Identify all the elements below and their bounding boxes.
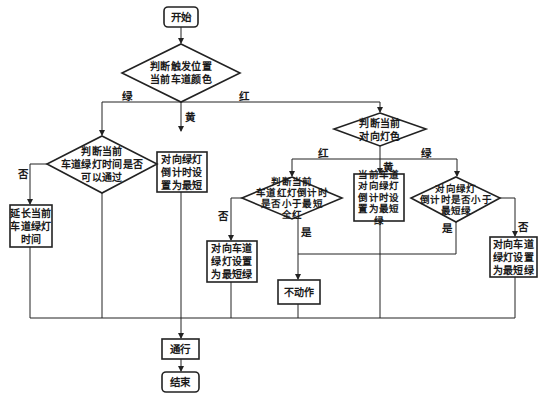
label-red: 红: [239, 90, 249, 102]
set-opposite-green-min-box-2: 对向车道 绿灯设置 为最短绿: [490, 237, 537, 277]
set-opposite-countdown-box: 对向绿灯 倒计时设 置为最短: [157, 152, 207, 192]
set-opposite-green-min-box: 对向车道 绿灯设置 为最短绿: [207, 241, 257, 282]
pass-box: 通行: [162, 339, 199, 359]
label-no-3: 否: [518, 221, 528, 233]
decision-opposite-color: 判断当前 对向灯色: [344, 116, 416, 144]
flowchart-canvas: 开始 判断触发位置 当前车道颜色 判断当前 车道绿灯时间是否 可以通过 延长当前…: [0, 0, 543, 409]
decision-red-countdown: 判断当前 车道红灯倒计时 是否小于最短 全红: [246, 176, 338, 220]
label-yes-1: 是: [301, 226, 311, 238]
label-green-2: 绿: [421, 147, 431, 159]
decision-opposite-green-countdown: 对向绿灯 倒计时是否小于 最短绿: [414, 182, 498, 216]
label-no-1: 否: [18, 168, 28, 180]
extend-green-box: 延长当前 车道绿灯 时间: [10, 205, 52, 247]
decision-current-lane-color: 判断触发位置 当前车道颜色: [130, 56, 232, 90]
start-node: 开始: [164, 7, 198, 27]
label-yes-2: 是: [442, 222, 452, 234]
label-yellow: 黄: [185, 111, 195, 123]
end-node: 结束: [162, 372, 199, 392]
label-no-2: 否: [218, 210, 228, 222]
no-action-box: 不动作: [278, 280, 320, 304]
set-opposite-green-countdown-box: 当前车道 对向绿灯 倒计时设 置为最短绿: [354, 174, 404, 221]
label-red-2: 红: [318, 147, 328, 159]
decision-green-time-enough: 判断当前 车道绿灯时间是否 可以通过: [50, 143, 154, 185]
label-yellow-2: 黄: [383, 161, 393, 173]
label-green: 绿: [122, 90, 132, 102]
